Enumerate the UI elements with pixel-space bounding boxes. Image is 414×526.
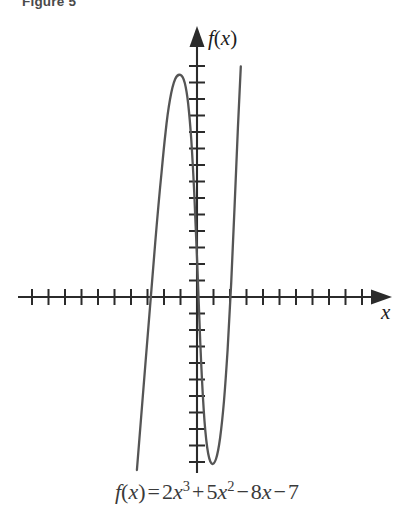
equation-var-linear: x	[262, 479, 272, 504]
equation-caption: f(x)=2x3+5x2−8x−7	[0, 478, 414, 505]
equation-equals: =	[146, 479, 162, 504]
equation-minus-first: −	[234, 479, 250, 504]
y-axis-label-open-paren: (	[214, 26, 221, 50]
function-curve	[137, 67, 241, 471]
equation-coef-quadratic: 5	[206, 479, 217, 504]
equation-constant: 7	[288, 479, 299, 504]
y-axis-label-close-paren: )	[230, 26, 237, 50]
cubic-function-plot	[0, 0, 414, 480]
equation-coef-cubic: 2	[162, 479, 173, 504]
x-axis-label: x	[381, 300, 390, 325]
equation-var-cubic: x	[173, 479, 183, 504]
equation-close-paren: )	[138, 479, 145, 504]
equation-coef-linear: 8	[251, 479, 262, 504]
y-axis-arrow-icon	[190, 26, 205, 47]
equation-exp-cubic: 3	[183, 478, 190, 494]
equation-minus-second: −	[272, 479, 288, 504]
y-axis-label-var: x	[221, 26, 230, 50]
equation-var-arg: x	[128, 479, 138, 504]
equation-var-quadratic: x	[217, 479, 227, 504]
plot-area: f(x) x	[0, 0, 414, 480]
y-axis-label: f(x)	[208, 26, 237, 51]
figure-root: Figure 5	[0, 0, 414, 526]
equation-plus: +	[190, 479, 206, 504]
